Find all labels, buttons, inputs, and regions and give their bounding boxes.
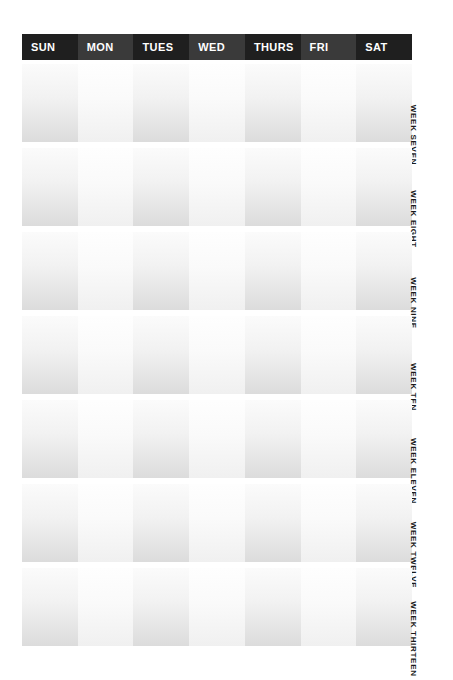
week-row: WEEK TEN xyxy=(22,316,412,394)
day-cell-thurs[interactable] xyxy=(245,64,301,142)
weekday-header-sat: SAT xyxy=(356,34,412,60)
day-cell-wed[interactable] xyxy=(189,484,245,562)
day-cell-mon[interactable] xyxy=(78,400,134,478)
day-cell-fri[interactable] xyxy=(301,64,357,142)
day-cell-mon[interactable] xyxy=(78,568,134,646)
weekday-header-row: SUNMONTUESWEDTHURSFRISAT xyxy=(22,34,412,60)
day-cell-thurs[interactable] xyxy=(245,484,301,562)
day-cell-tues[interactable] xyxy=(133,316,189,394)
week-row: WEEK SEVEN xyxy=(22,64,412,142)
day-cell-tues[interactable] xyxy=(133,64,189,142)
day-cell-wed[interactable] xyxy=(189,316,245,394)
day-cell-tues[interactable] xyxy=(133,568,189,646)
day-cell-sun[interactable] xyxy=(22,316,78,394)
day-cell-fri[interactable] xyxy=(301,484,357,562)
day-cell-sun[interactable] xyxy=(22,568,78,646)
day-cell-thurs[interactable] xyxy=(245,232,301,310)
day-cell-mon[interactable] xyxy=(78,484,134,562)
day-cell-tues[interactable] xyxy=(133,148,189,226)
day-cell-wed[interactable] xyxy=(189,568,245,646)
week-label: WEEK THIRTEEN xyxy=(406,600,420,678)
day-cell-sat[interactable] xyxy=(356,484,412,562)
week-row: WEEK THIRTEEN xyxy=(22,568,412,646)
day-cell-sun[interactable] xyxy=(22,484,78,562)
day-cell-sat[interactable] xyxy=(356,316,412,394)
weekday-header-fri: FRI xyxy=(301,34,357,60)
day-cell-fri[interactable] xyxy=(301,400,357,478)
day-cell-wed[interactable] xyxy=(189,148,245,226)
day-cell-mon[interactable] xyxy=(78,232,134,310)
day-cell-sun[interactable] xyxy=(22,64,78,142)
week-row: WEEK NINE xyxy=(22,232,412,310)
weekday-header-wed: WED xyxy=(189,34,245,60)
day-cell-sat[interactable] xyxy=(356,400,412,478)
weekday-header-mon: MON xyxy=(78,34,134,60)
day-cell-fri[interactable] xyxy=(301,568,357,646)
calendar-page: SUNMONTUESWEDTHURSFRISAT WEEK SEVENWEEK … xyxy=(0,0,453,680)
day-cell-fri[interactable] xyxy=(301,232,357,310)
weekday-header-thurs: THURS xyxy=(245,34,301,60)
day-cell-wed[interactable] xyxy=(189,400,245,478)
day-cell-tues[interactable] xyxy=(133,400,189,478)
day-cell-sat[interactable] xyxy=(356,64,412,142)
day-cell-thurs[interactable] xyxy=(245,568,301,646)
day-cell-sat[interactable] xyxy=(356,148,412,226)
day-cell-sat[interactable] xyxy=(356,568,412,646)
day-cell-thurs[interactable] xyxy=(245,316,301,394)
week-row: WEEK ELEVEN xyxy=(22,400,412,478)
day-cell-mon[interactable] xyxy=(78,64,134,142)
weekday-header-tues: TUES xyxy=(133,34,189,60)
day-cell-tues[interactable] xyxy=(133,484,189,562)
day-cell-tues[interactable] xyxy=(133,232,189,310)
weeks-area: WEEK SEVENWEEK EIGHTWEEK NINEWEEK TENWEE… xyxy=(22,64,412,646)
day-cell-sun[interactable] xyxy=(22,400,78,478)
week-row: WEEK TWELVE xyxy=(22,484,412,562)
weekday-header-sun: SUN xyxy=(22,34,78,60)
day-cell-mon[interactable] xyxy=(78,316,134,394)
day-cell-sun[interactable] xyxy=(22,148,78,226)
day-cell-thurs[interactable] xyxy=(245,148,301,226)
day-cell-wed[interactable] xyxy=(189,232,245,310)
day-cell-wed[interactable] xyxy=(189,64,245,142)
day-cell-sat[interactable] xyxy=(356,232,412,310)
day-cell-mon[interactable] xyxy=(78,148,134,226)
week-row: WEEK EIGHT xyxy=(22,148,412,226)
day-cell-thurs[interactable] xyxy=(245,400,301,478)
day-cell-fri[interactable] xyxy=(301,316,357,394)
day-cell-sun[interactable] xyxy=(22,232,78,310)
day-cell-fri[interactable] xyxy=(301,148,357,226)
